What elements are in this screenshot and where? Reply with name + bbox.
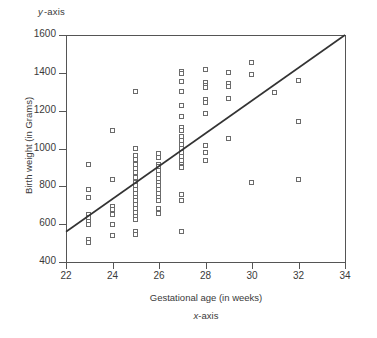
y-tick-label: 400: [16, 255, 56, 266]
x-axis-title: Gestational age (in weeks): [66, 292, 346, 303]
data-point: [156, 155, 161, 160]
data-point: [110, 222, 115, 227]
x-tick-label: 24: [98, 270, 128, 281]
plot-area: [66, 35, 345, 262]
data-point: [296, 177, 301, 182]
scatter-chart-figure: y -axis Birth weight (in Grams) 40060080…: [0, 0, 377, 338]
y-tick-mark: [59, 224, 66, 225]
x-tick-label: 30: [237, 270, 267, 281]
x-tick-label: 26: [144, 270, 174, 281]
data-point: [86, 195, 91, 200]
data-point: [296, 78, 301, 83]
data-point: [133, 232, 138, 237]
data-point: [226, 96, 231, 101]
data-point: [203, 67, 208, 72]
data-point: [86, 222, 91, 227]
y-tick-mark: [59, 111, 66, 112]
data-point: [203, 85, 208, 90]
data-point: [179, 128, 184, 133]
data-point: [296, 119, 301, 124]
data-point: [133, 217, 138, 222]
axis-line-right: [345, 35, 346, 263]
data-point: [249, 60, 254, 65]
y-tick-label: 1400: [16, 66, 56, 77]
y-tick-mark: [59, 186, 66, 187]
data-point: [272, 90, 277, 95]
data-point: [226, 70, 231, 75]
x-tick-mark: [252, 263, 253, 269]
y-tick-label: 600: [16, 217, 56, 228]
data-point: [110, 233, 115, 238]
x-tick-label: 28: [191, 270, 221, 281]
data-point: [86, 187, 91, 192]
data-point: [226, 84, 231, 89]
data-point: [179, 165, 184, 170]
y-tick-mark: [59, 149, 66, 150]
data-point: [179, 89, 184, 94]
data-point: [133, 89, 138, 94]
data-point: [249, 72, 254, 77]
data-point: [203, 143, 208, 148]
x-tick-mark: [206, 263, 207, 269]
x-tick-label: 34: [330, 270, 360, 281]
x-tick-mark: [299, 263, 300, 269]
data-point: [86, 240, 91, 245]
y-tick-mark: [59, 35, 66, 36]
data-point: [156, 198, 161, 203]
x-axis-note: x-axis: [66, 310, 346, 321]
x-tick-mark: [113, 263, 114, 269]
y-axis-note: y -axis: [38, 6, 65, 17]
data-point: [110, 128, 115, 133]
y-tick-mark: [59, 73, 66, 74]
data-point: [179, 192, 184, 197]
y-tick-mark: [59, 262, 66, 263]
data-point: [133, 146, 138, 151]
data-point: [226, 136, 231, 141]
data-point: [203, 158, 208, 163]
data-point: [203, 111, 208, 116]
data-point: [156, 211, 161, 216]
data-point: [179, 198, 184, 203]
y-tick-label: 1000: [16, 142, 56, 153]
x-tick-label: 32: [284, 270, 314, 281]
x-tick-mark: [345, 263, 346, 269]
x-tick-mark: [159, 263, 160, 269]
data-point: [179, 103, 184, 108]
y-tick-label: 1200: [16, 104, 56, 115]
data-point: [179, 229, 184, 234]
x-tick-mark: [66, 263, 67, 269]
data-point: [203, 150, 208, 155]
data-point: [110, 177, 115, 182]
y-tick-label: 1600: [16, 28, 56, 39]
data-point: [86, 162, 91, 167]
data-point: [110, 212, 115, 217]
data-point: [179, 71, 184, 76]
data-point: [203, 100, 208, 105]
y-tick-label: 800: [16, 179, 56, 190]
data-point: [249, 180, 254, 185]
data-point: [179, 79, 184, 84]
data-point: [179, 114, 184, 119]
x-tick-label: 22: [51, 270, 81, 281]
